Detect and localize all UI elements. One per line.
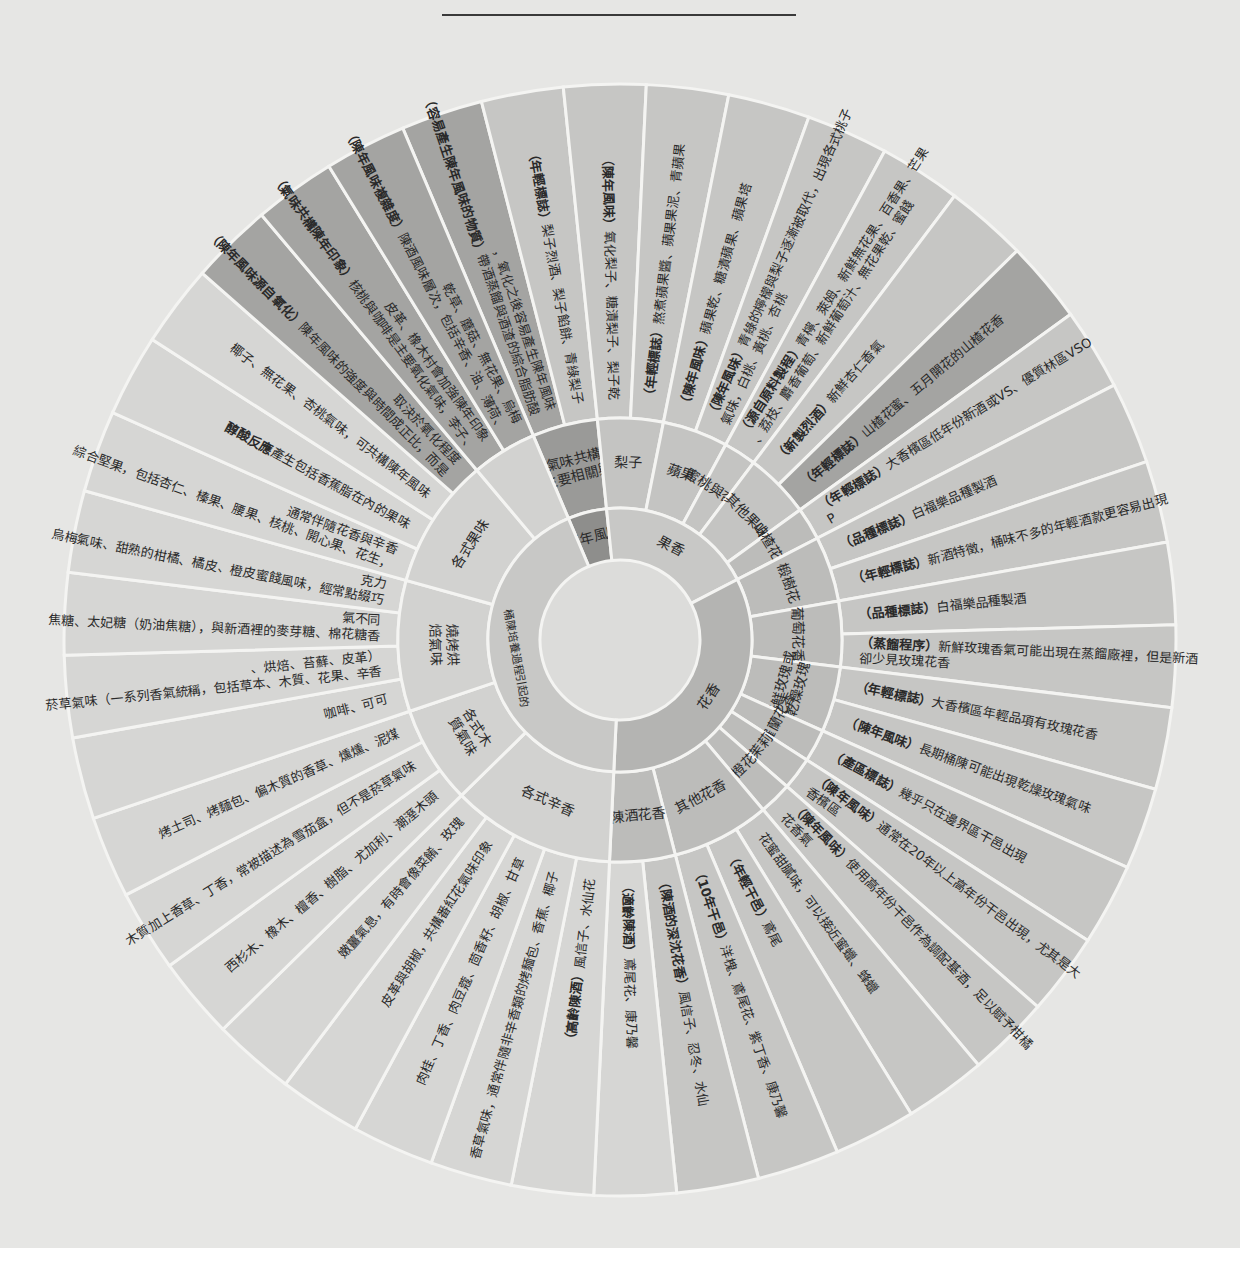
middle-label: 焙氣味 xyxy=(427,624,444,666)
outer-label: 氣不同 xyxy=(341,610,381,627)
middle-label: 梨子 xyxy=(614,454,643,471)
aroma-wheel: （容易產生陳年風味的物質）帶酒蒸餾與酒渣的綜合脂肪酸，氧化之後容易產生陳年風味（… xyxy=(0,0,1240,1273)
middle-label: 燒烤烘 xyxy=(444,623,461,665)
